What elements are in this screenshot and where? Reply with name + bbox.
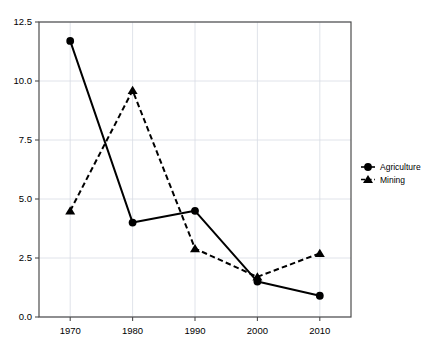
y-axis-tick-label: 10.0 bbox=[14, 75, 33, 86]
x-axis-tick-label: 1990 bbox=[184, 325, 205, 336]
legend-item-mining[interactable]: Mining bbox=[361, 175, 405, 185]
y-axis-tick-label: 5.0 bbox=[19, 193, 32, 204]
legend-label: Mining bbox=[380, 175, 405, 185]
circle-marker-icon bbox=[129, 219, 137, 227]
x-axis-tick-label: 2010 bbox=[309, 325, 330, 336]
circle-marker-icon bbox=[364, 163, 372, 171]
y-axis-tick-label: 2.5 bbox=[19, 252, 32, 263]
chart-legend: AgricultureMining bbox=[359, 159, 427, 189]
circle-marker-icon bbox=[316, 292, 324, 300]
legend-label: Agriculture bbox=[380, 162, 421, 172]
y-axis-tick-label: 0.0 bbox=[19, 311, 32, 322]
x-axis-tick-label: 2000 bbox=[247, 325, 268, 336]
y-axis-tick-label: 12.5 bbox=[14, 16, 33, 27]
x-axis-tick-label: 1980 bbox=[122, 325, 143, 336]
chart-figure: 0.02.55.07.510.012.5 1970198019902000201… bbox=[0, 0, 429, 345]
circle-marker-icon bbox=[191, 207, 199, 215]
x-axis-tick-label: 1970 bbox=[60, 325, 81, 336]
line-chart: 0.02.55.07.510.012.5 1970198019902000201… bbox=[0, 0, 429, 345]
y-axis-tick-label: 7.5 bbox=[19, 134, 32, 145]
circle-marker-icon bbox=[66, 37, 74, 45]
